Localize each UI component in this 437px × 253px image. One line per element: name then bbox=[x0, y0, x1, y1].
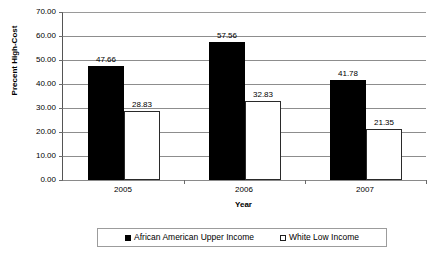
bar-value-label: 47.66 bbox=[82, 56, 130, 64]
y-axis-tick-label: 70.00 bbox=[12, 8, 56, 16]
y-axis-tick-label: 0.00 bbox=[12, 176, 56, 184]
y-axis-tick-mark bbox=[59, 36, 63, 37]
y-axis-tick-mark bbox=[59, 132, 63, 133]
y-axis-tick-label: 10.00 bbox=[12, 152, 56, 160]
y-axis-tick-label: 50.00 bbox=[12, 56, 56, 64]
bar-value-label: 57.56 bbox=[203, 32, 251, 40]
y-axis-tick-mark bbox=[59, 12, 63, 13]
legend-item-label: White Low Income bbox=[289, 233, 359, 242]
bar-value-label: 28.83 bbox=[118, 101, 166, 109]
bar bbox=[209, 42, 245, 180]
bar bbox=[330, 80, 366, 180]
x-axis-tick-label: 2005 bbox=[93, 185, 153, 194]
gridline bbox=[63, 12, 426, 13]
bar bbox=[88, 66, 124, 180]
legend-swatch-hollow-icon bbox=[280, 235, 286, 241]
bar-value-label: 41.78 bbox=[324, 70, 372, 78]
x-axis-category-separator bbox=[426, 180, 427, 184]
legend-item-white-low-income: White Low Income bbox=[280, 233, 359, 242]
y-axis-tick-label: 30.00 bbox=[12, 104, 56, 112]
y-axis-tick-mark bbox=[59, 108, 63, 109]
x-axis-category-separator bbox=[184, 180, 185, 184]
x-axis-title: Year bbox=[62, 200, 425, 209]
plot-area: 47.6628.8357.5632.8341.7821.35 bbox=[62, 12, 426, 181]
y-axis-tick-mark bbox=[59, 60, 63, 61]
bar bbox=[124, 111, 160, 180]
y-axis-tick-mark bbox=[59, 84, 63, 85]
x-axis-category-separator bbox=[305, 180, 306, 184]
bar-value-label: 21.35 bbox=[360, 119, 408, 127]
bar-chart: Precent High-Cost 47.6628.8357.5632.8341… bbox=[0, 0, 437, 253]
legend-swatch-filled-icon bbox=[125, 235, 131, 241]
chart-legend: African American Upper Income White Low … bbox=[97, 228, 387, 247]
x-axis-tick-label: 2007 bbox=[335, 185, 395, 194]
bar bbox=[245, 101, 281, 180]
y-axis-tick-mark bbox=[59, 180, 63, 181]
bar bbox=[366, 129, 402, 180]
y-axis-tick-label: 20.00 bbox=[12, 128, 56, 136]
y-axis-tick-mark bbox=[59, 156, 63, 157]
y-axis-tick-label: 60.00 bbox=[12, 32, 56, 40]
bar-value-label: 32.83 bbox=[239, 91, 287, 99]
x-axis-tick-label: 2006 bbox=[214, 185, 274, 194]
legend-item-african-american-upper-income: African American Upper Income bbox=[125, 233, 254, 242]
legend-item-label: African American Upper Income bbox=[134, 233, 254, 242]
y-axis-tick-label: 40.00 bbox=[12, 80, 56, 88]
